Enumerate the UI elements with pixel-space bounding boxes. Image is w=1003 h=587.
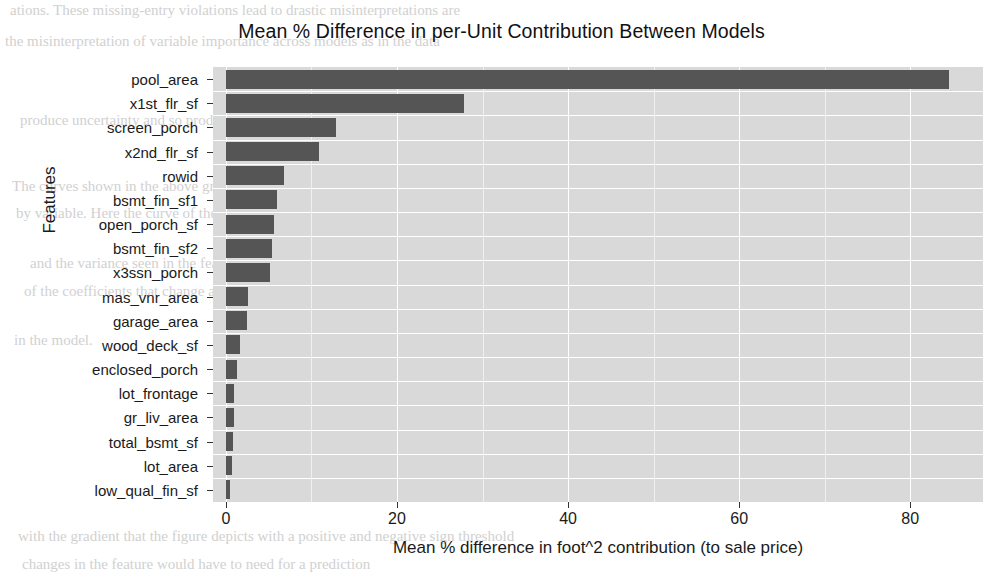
bar bbox=[226, 408, 234, 427]
x-tick-mark bbox=[397, 502, 398, 508]
x-tick-mark bbox=[910, 502, 911, 508]
x-tick-mark bbox=[226, 502, 227, 508]
bar bbox=[226, 118, 336, 137]
gridline-horizontal bbox=[213, 188, 983, 189]
gridline-vertical-minor bbox=[654, 67, 655, 502]
bar bbox=[226, 70, 949, 89]
bar bbox=[226, 335, 240, 354]
bar bbox=[226, 480, 230, 499]
gridline-horizontal bbox=[213, 478, 983, 479]
y-tick-mark bbox=[207, 466, 213, 467]
bar bbox=[226, 239, 272, 258]
y-tick-label: x3ssn_porch bbox=[0, 264, 198, 281]
x-tick-label: 0 bbox=[196, 510, 256, 528]
y-tick-label: total_bsmt_sf bbox=[0, 433, 198, 450]
bar bbox=[226, 215, 274, 234]
gridline-vertical-major bbox=[568, 67, 569, 502]
gridline-horizontal bbox=[213, 260, 983, 261]
y-tick-mark bbox=[207, 248, 213, 249]
gridline-horizontal bbox=[213, 357, 983, 358]
bar bbox=[226, 432, 233, 451]
y-tick-mark bbox=[207, 297, 213, 298]
chart-title: Mean % Difference in per-Unit Contributi… bbox=[0, 20, 1003, 43]
y-tick-mark bbox=[207, 417, 213, 418]
gridline-horizontal bbox=[213, 381, 983, 382]
y-tick-mark bbox=[207, 393, 213, 394]
x-tick-mark bbox=[568, 502, 569, 508]
bar bbox=[226, 190, 277, 209]
gridline-vertical-major bbox=[739, 67, 740, 502]
gridline-horizontal bbox=[213, 212, 983, 213]
y-tick-label: x2nd_flr_sf bbox=[0, 143, 198, 160]
gridline-horizontal bbox=[213, 285, 983, 286]
y-tick-label: enclosed_porch bbox=[0, 361, 198, 378]
gridline-vertical-minor bbox=[483, 67, 484, 502]
y-tick-label: wood_deck_sf bbox=[0, 336, 198, 353]
y-tick-mark bbox=[207, 442, 213, 443]
y-tick-mark bbox=[207, 79, 213, 80]
x-tick-label: 40 bbox=[538, 510, 598, 528]
bar bbox=[226, 94, 464, 113]
y-tick-mark bbox=[207, 127, 213, 128]
y-tick-label: mas_vnr_area bbox=[0, 288, 198, 305]
y-tick-label: lot_frontage bbox=[0, 385, 198, 402]
x-tick-mark bbox=[739, 502, 740, 508]
y-tick-mark bbox=[207, 345, 213, 346]
gridline-vertical-minor bbox=[825, 67, 826, 502]
y-tick-label: lot_area bbox=[0, 457, 198, 474]
gridline-vertical-major bbox=[910, 67, 911, 502]
gridline-vertical-major bbox=[397, 67, 398, 502]
y-tick-label: x1st_flr_sf bbox=[0, 95, 198, 112]
gridline-horizontal bbox=[213, 236, 983, 237]
x-axis-title: Mean % difference in foot^2 contribution… bbox=[213, 538, 983, 558]
gridline-horizontal bbox=[213, 115, 983, 116]
gridline-horizontal bbox=[213, 430, 983, 431]
bar bbox=[226, 142, 319, 161]
bar bbox=[226, 166, 284, 185]
y-tick-mark bbox=[207, 272, 213, 273]
y-tick-label: bsmt_fin_sf1 bbox=[0, 191, 198, 208]
y-tick-mark bbox=[207, 176, 213, 177]
bar bbox=[226, 263, 270, 282]
gridline-horizontal bbox=[213, 140, 983, 141]
plot-panel bbox=[213, 67, 983, 502]
y-tick-label: open_porch_sf bbox=[0, 216, 198, 233]
gridline-horizontal bbox=[213, 164, 983, 165]
y-tick-mark bbox=[207, 369, 213, 370]
gridline-horizontal bbox=[213, 309, 983, 310]
bar bbox=[226, 360, 237, 379]
bar bbox=[226, 311, 247, 330]
y-tick-mark bbox=[207, 321, 213, 322]
gridline-horizontal bbox=[213, 91, 983, 92]
y-tick-label: bsmt_fin_sf2 bbox=[0, 240, 198, 257]
y-tick-label: garage_area bbox=[0, 312, 198, 329]
y-tick-label: pool_area bbox=[0, 71, 198, 88]
bar bbox=[226, 287, 248, 306]
x-tick-label: 20 bbox=[367, 510, 427, 528]
y-tick-mark bbox=[207, 200, 213, 201]
y-tick-label: gr_liv_area bbox=[0, 409, 198, 426]
y-tick-mark bbox=[207, 152, 213, 153]
gridline-horizontal bbox=[213, 405, 983, 406]
x-tick-label: 60 bbox=[709, 510, 769, 528]
y-tick-label: rowid bbox=[0, 167, 198, 184]
y-tick-mark bbox=[207, 224, 213, 225]
bar-chart-figure: Mean % Difference in per-Unit Contributi… bbox=[0, 0, 1003, 587]
plot-area bbox=[213, 67, 983, 502]
gridline-horizontal bbox=[213, 454, 983, 455]
y-tick-label: low_qual_fin_sf bbox=[0, 481, 198, 498]
y-tick-mark bbox=[207, 103, 213, 104]
y-tick-label: screen_porch bbox=[0, 119, 198, 136]
y-tick-mark bbox=[207, 490, 213, 491]
bar bbox=[226, 456, 232, 475]
gridline-horizontal bbox=[213, 333, 983, 334]
bar bbox=[226, 384, 235, 403]
x-tick-label: 80 bbox=[880, 510, 940, 528]
